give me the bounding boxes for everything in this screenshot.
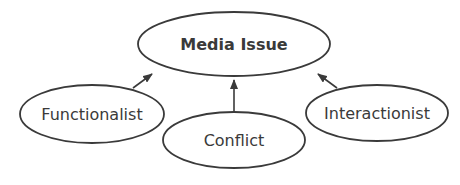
perspectives-diagram: Media Issue Functionalist Conflict Inter…: [0, 0, 460, 185]
node-media-issue: Media Issue: [138, 12, 330, 76]
conflict-label: Conflict: [204, 131, 265, 150]
arrow-interactionist-to-media-issue: [318, 74, 337, 88]
node-functionalist: Functionalist: [20, 85, 164, 143]
functionalist-label: Functionalist: [41, 105, 142, 124]
node-conflict: Conflict: [163, 112, 305, 168]
interactionist-label: Interactionist: [324, 104, 430, 123]
media-issue-label: Media Issue: [180, 35, 287, 54]
arrow-functionalist-to-media-issue: [133, 74, 152, 88]
node-interactionist: Interactionist: [306, 85, 448, 141]
